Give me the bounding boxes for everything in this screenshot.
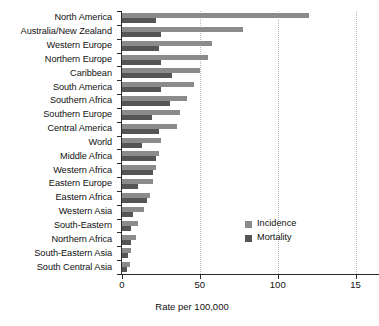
y-axis-tick bbox=[117, 191, 121, 192]
category-label: Northern Africa bbox=[0, 233, 117, 247]
bar-mortality bbox=[122, 46, 159, 51]
horizontal-bar-chart: North America Australia/New Zealand West… bbox=[0, 0, 379, 326]
category-label: South Central Asia bbox=[0, 260, 117, 274]
y-axis-tick bbox=[117, 219, 121, 220]
y-axis-tick bbox=[117, 163, 121, 164]
y-axis-tick bbox=[117, 149, 121, 150]
bar-mortality bbox=[122, 32, 161, 37]
x-axis-tick-label: 0 bbox=[119, 280, 124, 290]
y-axis-tick bbox=[117, 25, 121, 26]
bar-mortality bbox=[122, 240, 131, 245]
category-label: Western Asia bbox=[0, 205, 117, 219]
category-label: South-Eastern Asia bbox=[0, 246, 117, 260]
category-label: South-Eastern bbox=[0, 219, 117, 233]
x-axis-tick-label: 100 bbox=[270, 280, 286, 290]
bar-group bbox=[122, 246, 379, 260]
y-axis-tick bbox=[117, 39, 121, 40]
bar-group bbox=[122, 80, 379, 94]
bar-mortality bbox=[122, 226, 131, 231]
category-label: Caribbean bbox=[0, 66, 117, 80]
legend-item-mortality: Mortality bbox=[245, 231, 296, 245]
bar-group bbox=[122, 191, 379, 205]
bar-group bbox=[122, 108, 379, 122]
bar-mortality bbox=[122, 253, 128, 258]
bar-mortality bbox=[122, 212, 133, 217]
bar-mortality bbox=[122, 143, 142, 148]
bar-mortality bbox=[122, 60, 161, 65]
category-label: Western Europe bbox=[0, 39, 117, 53]
y-axis-tick bbox=[117, 108, 121, 109]
legend-label-mortality: Mortality bbox=[257, 233, 292, 242]
x-axis-tick-label: 50 bbox=[195, 280, 206, 290]
bar-mortality bbox=[122, 87, 161, 92]
bar-mortality bbox=[122, 101, 170, 106]
category-label: Central America bbox=[0, 122, 117, 136]
category-label: Eastern Europe bbox=[0, 177, 117, 191]
y-axis-tick bbox=[117, 122, 121, 123]
bar-group bbox=[122, 39, 379, 53]
y-axis-tick bbox=[117, 136, 121, 137]
bar-group bbox=[122, 136, 379, 150]
bar-group bbox=[122, 94, 379, 108]
bar-mortality bbox=[122, 73, 172, 78]
category-label: Eastern Africa bbox=[0, 191, 117, 205]
bar-group bbox=[122, 66, 379, 80]
x-axis-tick-label: 15 bbox=[350, 280, 361, 290]
category-label: Western Africa bbox=[0, 163, 117, 177]
x-axis-title: Rate per 100,000 bbox=[0, 301, 379, 312]
y-axis-tick bbox=[117, 205, 121, 206]
bar-mortality bbox=[122, 129, 159, 134]
legend-swatch-mortality bbox=[245, 235, 252, 242]
category-label: South America bbox=[0, 80, 117, 94]
bar-mortality bbox=[122, 115, 152, 120]
bar-mortality bbox=[122, 18, 156, 23]
category-label: North America bbox=[0, 11, 117, 25]
legend-label-incidence: Incidence bbox=[257, 219, 296, 228]
bar-mortality bbox=[122, 170, 153, 175]
bar-group bbox=[122, 149, 379, 163]
chart-legend: Incidence Mortality bbox=[245, 217, 296, 245]
legend-swatch-incidence bbox=[245, 221, 252, 228]
category-label: Middle Africa bbox=[0, 149, 117, 163]
category-label: Southern Europe bbox=[0, 108, 117, 122]
bar-group bbox=[122, 53, 379, 67]
category-label: Australia/New Zealand bbox=[0, 25, 117, 39]
y-axis-tick bbox=[117, 232, 121, 233]
category-label: Southern Africa bbox=[0, 94, 117, 108]
y-axis-tick bbox=[117, 53, 121, 54]
bar-group bbox=[122, 163, 379, 177]
bar-group bbox=[122, 122, 379, 136]
category-label: World bbox=[0, 136, 117, 150]
y-axis-line bbox=[121, 11, 122, 275]
bar-group bbox=[122, 25, 379, 39]
y-axis-tick bbox=[117, 94, 121, 95]
bar-mortality bbox=[122, 198, 147, 203]
y-axis-tick bbox=[117, 260, 121, 261]
bar-group bbox=[122, 11, 379, 25]
y-axis-tick bbox=[117, 274, 121, 275]
x-axis-title-text: Rate per 100,000 bbox=[155, 301, 228, 312]
bar-mortality bbox=[122, 184, 138, 189]
y-axis-tick bbox=[117, 66, 121, 67]
y-axis-tick bbox=[117, 80, 121, 81]
bar-group bbox=[122, 260, 379, 274]
bar-mortality bbox=[122, 156, 156, 161]
y-axis-tick bbox=[117, 177, 121, 178]
category-axis: North America Australia/New Zealand West… bbox=[0, 11, 117, 274]
bar-mortality bbox=[122, 267, 127, 272]
y-axis-tick bbox=[117, 11, 121, 12]
category-label: Northern Europe bbox=[0, 53, 117, 67]
x-axis-line bbox=[121, 274, 379, 275]
bar-group bbox=[122, 177, 379, 191]
legend-item-incidence: Incidence bbox=[245, 217, 296, 231]
y-axis-tick bbox=[117, 246, 121, 247]
